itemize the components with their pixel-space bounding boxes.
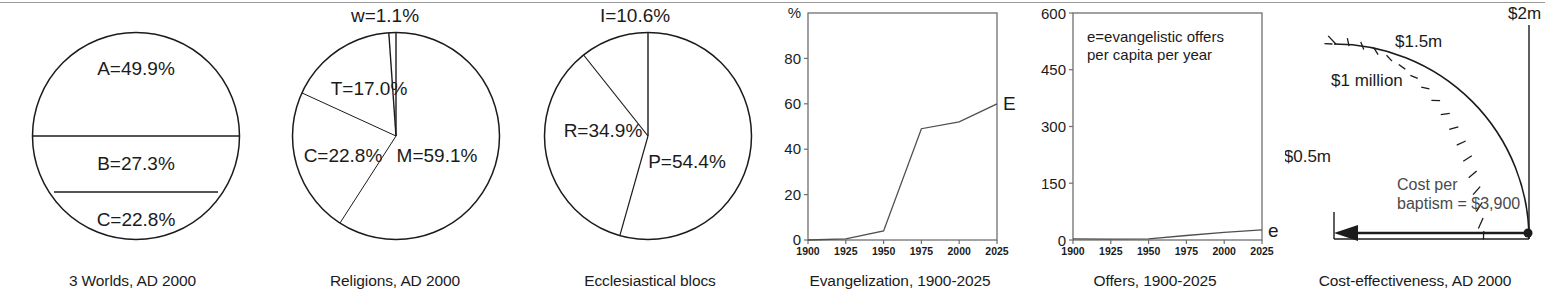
three-worlds-chart: A=49.9% B=27.3% C=22.8% (0, 0, 265, 270)
xtick-label-1975: 1975 (1175, 245, 1199, 257)
panel-caption-cost-effectiveness: Cost-effectiveness, AD 2000 (1285, 272, 1545, 290)
figure-strip: A=49.9% B=27.3% C=22.8% 3 Worlds, AD 200… (0, 0, 1545, 299)
slice-label-b: B=27.3% (97, 153, 175, 174)
ecclesiastical-blocs-chart: I=10.6% R=34.9% P=54.4% (525, 0, 775, 270)
yaxis-unit-label: % (788, 4, 801, 21)
xtick-label-1925: 1925 (834, 245, 858, 257)
slice-label-w: w=1.1% (350, 5, 419, 26)
xtick-label-1900: 1900 (1061, 245, 1085, 257)
panel-offers: 600 450 300 150 0 1900 1925 1950 1975 20… (1025, 0, 1285, 299)
slice-label-t: T=17.0% (331, 78, 408, 99)
ytick-label-600: 600 (1041, 5, 1066, 22)
xtick-label-1950: 1950 (1137, 245, 1161, 257)
gauge-label-1-5m: $1.5m (1395, 32, 1442, 51)
offers-note-line-2: per capita per year (1087, 46, 1212, 63)
panel-religions: w=1.1% T=17.0% C=22.8% M=59.1% Religions… (265, 0, 525, 299)
evangelization-chart: % 80 60 40 20 0 1900 1925 1950 1975 2000… (775, 0, 1025, 270)
xtick-label-1975: 1975 (910, 245, 934, 257)
ytick-label-150: 150 (1041, 175, 1066, 192)
xtick-label-1900: 1900 (796, 245, 820, 257)
plot-frame (808, 13, 997, 240)
ytick-label-80: 80 (784, 50, 801, 67)
ytick-label-20: 20 (784, 186, 801, 203)
slice-label-c: C=22.8% (304, 145, 383, 166)
slice-label-m: M=59.1% (397, 145, 478, 166)
panel-caption-evangelization: Evangelization, 1900-2025 (775, 272, 1025, 290)
panel-three-worlds: A=49.9% B=27.3% C=22.8% 3 Worlds, AD 200… (0, 0, 265, 299)
panel-cost-effectiveness: $0.5m $1 million $1.5m $2m Cost per bapt… (1285, 0, 1545, 299)
slice-label-p: P=54.4% (648, 151, 726, 172)
series-letter-E: E (1003, 93, 1016, 114)
xtick-label-2025: 2025 (985, 245, 1009, 257)
panel-caption-ecclesiastical-blocs: Ecclesiastical blocs (525, 272, 775, 290)
gauge-label-0-5m: $0.5m (1285, 147, 1331, 166)
ytick-label-300: 300 (1041, 118, 1066, 135)
offers-chart: 600 450 300 150 0 1900 1925 1950 1975 20… (1025, 0, 1285, 270)
panel-caption-offers: Offers, 1900-2025 (1025, 272, 1285, 290)
slice-label-a: A=49.9% (97, 58, 175, 79)
offers-note-line-1: e=evangelistic offers (1087, 28, 1224, 45)
panel-evangelization: % 80 60 40 20 0 1900 1925 1950 1975 2000… (775, 0, 1025, 299)
panel-ecclesiastical-blocs: I=10.6% R=34.9% P=54.4% Ecclesiastical b… (525, 0, 775, 299)
panel-caption-three-worlds: 3 Worlds, AD 2000 (0, 272, 265, 290)
religions-chart: w=1.1% T=17.0% C=22.8% M=59.1% (265, 0, 525, 270)
slice-label-i: I=10.6% (600, 5, 670, 26)
cost-effectiveness-gauge: $0.5m $1 million $1.5m $2m Cost per bapt… (1285, 0, 1545, 270)
panel-caption-religions: Religions, AD 2000 (265, 272, 525, 290)
gauge-label-1-million: $1 million (1331, 71, 1403, 90)
slice-label-r: R=34.9% (564, 120, 643, 141)
xtick-label-2000: 2000 (1213, 245, 1237, 257)
ytick-label-40: 40 (784, 140, 801, 157)
xtick-label-2000: 2000 (948, 245, 972, 257)
gauge-label-2m: $2m (1508, 4, 1541, 23)
ytick-label-450: 450 (1041, 61, 1066, 78)
series-letter-e: e (1268, 220, 1279, 241)
gauge-note-line-2: baptism = $3,900 (1397, 195, 1520, 212)
xtick-label-1925: 1925 (1099, 245, 1123, 257)
gauge-pivot-dot (1524, 229, 1533, 238)
gauge-note-line-1: Cost per (1397, 176, 1458, 193)
slice-label-c: C=22.8% (97, 209, 176, 230)
ytick-label-60: 60 (784, 95, 801, 112)
xtick-label-1950: 1950 (872, 245, 896, 257)
xtick-label-2025: 2025 (1250, 245, 1274, 257)
